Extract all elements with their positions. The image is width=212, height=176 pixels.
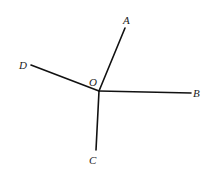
- ray-oc: [96, 91, 99, 150]
- ray-oa: [99, 28, 125, 91]
- label-c: C: [89, 154, 97, 166]
- label-a: A: [122, 14, 130, 26]
- angle-diagram: O A B C D: [0, 0, 212, 176]
- label-b: B: [193, 87, 200, 99]
- ray-ob: [99, 91, 191, 93]
- label-d: D: [18, 59, 27, 71]
- label-o: O: [89, 76, 97, 88]
